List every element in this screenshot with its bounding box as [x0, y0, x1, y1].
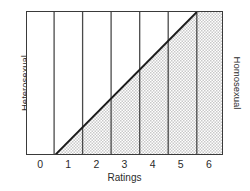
x-tick-labels: 0 1 2 3 4 5 6: [26, 157, 223, 172]
x-tick-3: 3: [110, 157, 138, 172]
x-tick-6: 6: [195, 157, 223, 172]
x-axis-title: Ratings: [26, 172, 223, 184]
x-tick-5: 5: [167, 157, 195, 172]
kinsey-scale-figure: Heterosexual Homosexual: [0, 0, 250, 191]
x-tick-0: 0: [26, 157, 54, 172]
x-tick-2: 2: [82, 157, 110, 172]
plot-area: [26, 11, 223, 155]
x-tick-4: 4: [139, 157, 167, 172]
x-tick-1: 1: [54, 157, 82, 172]
plot-canvas: [27, 12, 223, 155]
right-axis-label: Homosexual: [232, 11, 243, 155]
shaded-region: [54, 12, 223, 155]
